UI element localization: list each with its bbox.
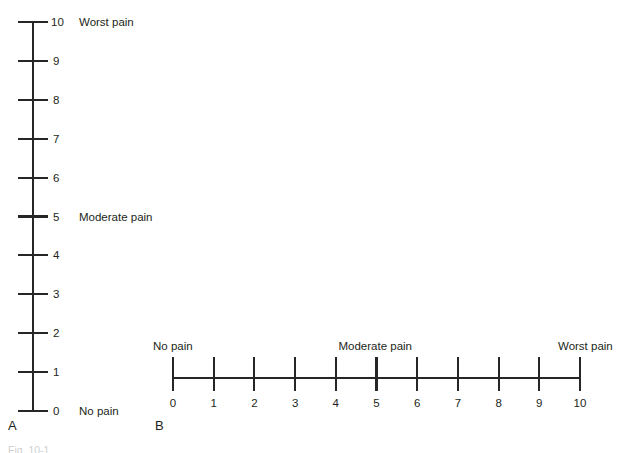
panel-b-tick-7[interactable]	[457, 357, 459, 391]
panel-b-tick-label-0: 0	[170, 397, 176, 409]
pain-scale-figure: 10Worst pain98765Moderate pain43210No pa…	[0, 0, 625, 453]
panel-b-tick-9[interactable]	[538, 357, 540, 391]
panel-b-tick-6[interactable]	[416, 357, 418, 391]
panel-b-tick-2[interactable]	[253, 357, 255, 391]
panel-b-anchor-worst: Worst pain	[558, 340, 613, 352]
panel-b-tick-label-1: 1	[210, 397, 216, 409]
panel-b-tick-10[interactable]	[579, 357, 581, 391]
panel-b-tick-8[interactable]	[498, 357, 500, 391]
panel-b-tick-label-7: 7	[455, 397, 461, 409]
panel-b-tick-label-5: 5	[373, 397, 379, 409]
panel-b-anchor-moderate: Moderate pain	[339, 340, 413, 352]
panel-b-tick-5[interactable]	[375, 357, 377, 391]
panel-letter-b: B	[155, 419, 164, 433]
figure-caption-fragment: Fig. 10-1	[8, 445, 49, 453]
panel-b-anchor-no: No pain	[153, 340, 193, 352]
panel-b-tick-label-2: 2	[251, 397, 257, 409]
panel-b-tick-label-9: 9	[536, 397, 542, 409]
panel-b-tick-3[interactable]	[294, 357, 296, 391]
panel-b-tick-label-6: 6	[414, 397, 420, 409]
panel-b-tick-1[interactable]	[213, 357, 215, 391]
panel-letter-a: A	[8, 419, 17, 433]
panel-b-tick-label-10: 10	[574, 397, 587, 409]
panel-b-tick-label-4: 4	[333, 397, 339, 409]
panel-b-tick-label-3: 3	[292, 397, 298, 409]
panel-b-tick-0[interactable]	[172, 357, 174, 391]
panel-b-horizontal-scale: 012345678910 No painModerate painWorst p…	[0, 0, 625, 453]
panel-b-tick-4[interactable]	[335, 357, 337, 391]
panel-b-tick-label-8: 8	[495, 397, 501, 409]
